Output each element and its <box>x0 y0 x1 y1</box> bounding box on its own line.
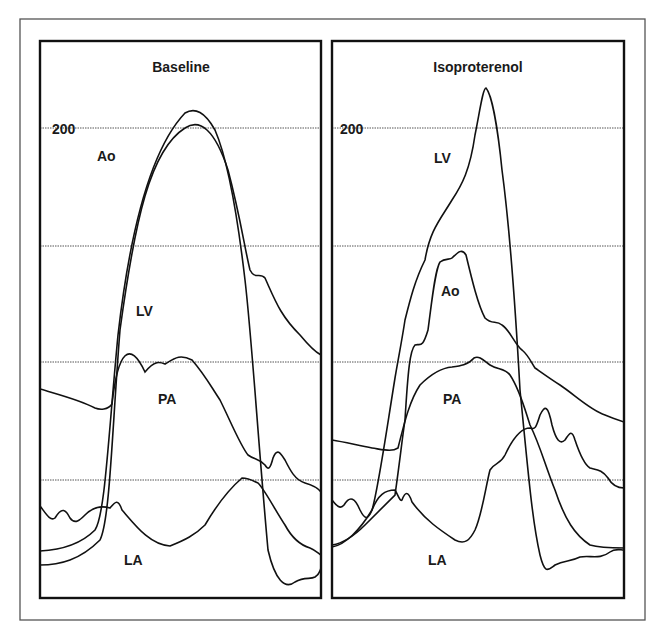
series-label-ao: Ao <box>441 283 460 299</box>
curve-ao <box>40 125 321 565</box>
gridlines <box>332 128 624 480</box>
figure: Baseline 200 Ao LV PA LA Isoproterenol 2… <box>0 0 659 643</box>
series-label-lv: LV <box>434 150 452 166</box>
series-label-ao: Ao <box>97 148 116 164</box>
panel-title: Baseline <box>152 59 210 75</box>
y-tick-label: 200 <box>340 121 364 137</box>
pressure-curves <box>40 111 321 585</box>
series-label-la: LA <box>124 552 143 568</box>
panel-title: Isoproterenol <box>433 59 522 75</box>
curve-la <box>40 478 321 555</box>
y-tick-label: 200 <box>52 121 76 137</box>
curve-pa <box>40 354 321 492</box>
gridlines <box>40 128 321 480</box>
series-label-la: LA <box>428 552 447 568</box>
curve-lv <box>40 111 321 585</box>
curve-la <box>332 408 624 542</box>
chart-panel-baseline: Baseline 200 Ao LV PA LA <box>40 41 321 598</box>
curve-lv <box>332 88 624 569</box>
series-label-pa: PA <box>158 391 176 407</box>
series-label-pa: PA <box>443 391 461 407</box>
chart-panel-isoproterenol: Isoproterenol 200 LV Ao PA LA <box>332 41 624 598</box>
series-label-lv: LV <box>136 303 154 319</box>
pressure-curves <box>332 88 624 569</box>
